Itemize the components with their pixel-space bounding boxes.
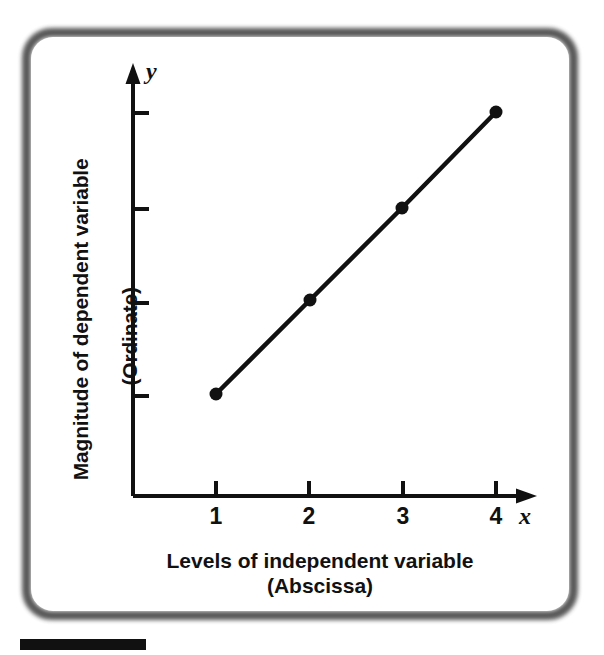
- figure-page: y x 1 2 3 4 Magnitude of dependent varia…: [0, 0, 604, 655]
- y-axis-title-line2: (Ordinate): [118, 126, 143, 546]
- data-point-4: [490, 106, 503, 119]
- x-variable-label: x: [519, 503, 531, 530]
- x-axis-title-line2: (Abscissa): [110, 574, 530, 599]
- y-axis-title: Magnitude of dependent variable (Ordinat…: [44, 126, 193, 546]
- x-tick-label-1: 1: [201, 503, 231, 530]
- y-axis-title-line1: Magnitude of dependent variable: [68, 159, 91, 481]
- x-tick-label-4: 4: [481, 503, 511, 530]
- data-point-2: [304, 294, 317, 307]
- data-series-line: [216, 112, 496, 394]
- y-variable-label: y: [146, 58, 157, 85]
- x-axis-arrowhead: [516, 489, 537, 504]
- x-tick-label-2: 2: [294, 503, 324, 530]
- x-axis-ticks: [216, 481, 496, 496]
- caption-rule-bar: [20, 639, 146, 650]
- chart-plot-area: y x 1 2 3 4 Magnitude of dependent varia…: [0, 0, 604, 655]
- y-axis-arrowhead: [126, 63, 141, 84]
- x-tick-label-3: 3: [388, 503, 418, 530]
- x-axis: [133, 489, 537, 504]
- data-point-1: [210, 388, 223, 401]
- x-axis-title: Levels of independent variable (Abscissa…: [110, 549, 530, 599]
- x-axis-title-line1: Levels of independent variable: [167, 549, 474, 572]
- data-point-3: [396, 202, 409, 215]
